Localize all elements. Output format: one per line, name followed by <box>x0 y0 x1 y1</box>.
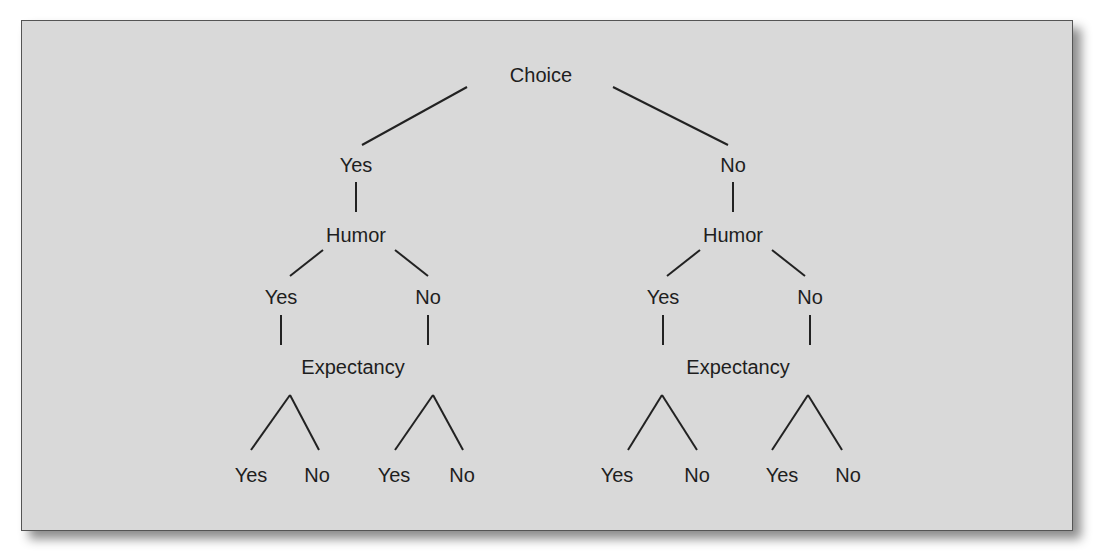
tree-edge <box>362 87 467 145</box>
tree-edge <box>667 250 700 276</box>
tree-edge <box>662 395 697 450</box>
node-leaf8: No <box>835 464 861 487</box>
node-r-h-yes: Yes <box>647 286 680 309</box>
tree-edge <box>772 395 808 450</box>
tree-edge <box>433 395 463 450</box>
tree-edge <box>395 250 428 276</box>
node-r-humor: Humor <box>703 224 763 247</box>
node-l-h-no: No <box>415 286 441 309</box>
tree-edge <box>395 395 433 450</box>
node-l1-yes: Yes <box>340 154 373 177</box>
node-r1-no: No <box>720 154 746 177</box>
node-leaf3: Yes <box>378 464 411 487</box>
node-r-expectancy: Expectancy <box>686 356 789 379</box>
node-l-humor: Humor <box>326 224 386 247</box>
node-leaf1: Yes <box>235 464 268 487</box>
tree-edge <box>808 395 842 450</box>
node-leaf7: Yes <box>766 464 799 487</box>
node-leaf4: No <box>449 464 475 487</box>
tree-edge <box>628 395 662 450</box>
node-l-h-yes: Yes <box>265 286 298 309</box>
tree-edge <box>290 395 319 450</box>
node-r-h-no: No <box>797 286 823 309</box>
node-leaf5: Yes <box>601 464 634 487</box>
node-leaf2: No <box>304 464 330 487</box>
node-l-expectancy: Expectancy <box>301 356 404 379</box>
node-choice: Choice <box>510 64 572 87</box>
tree-edge <box>772 250 805 276</box>
tree-edge <box>251 395 290 450</box>
tree-edge <box>290 250 323 276</box>
tree-edge <box>613 87 728 145</box>
node-leaf6: No <box>684 464 710 487</box>
